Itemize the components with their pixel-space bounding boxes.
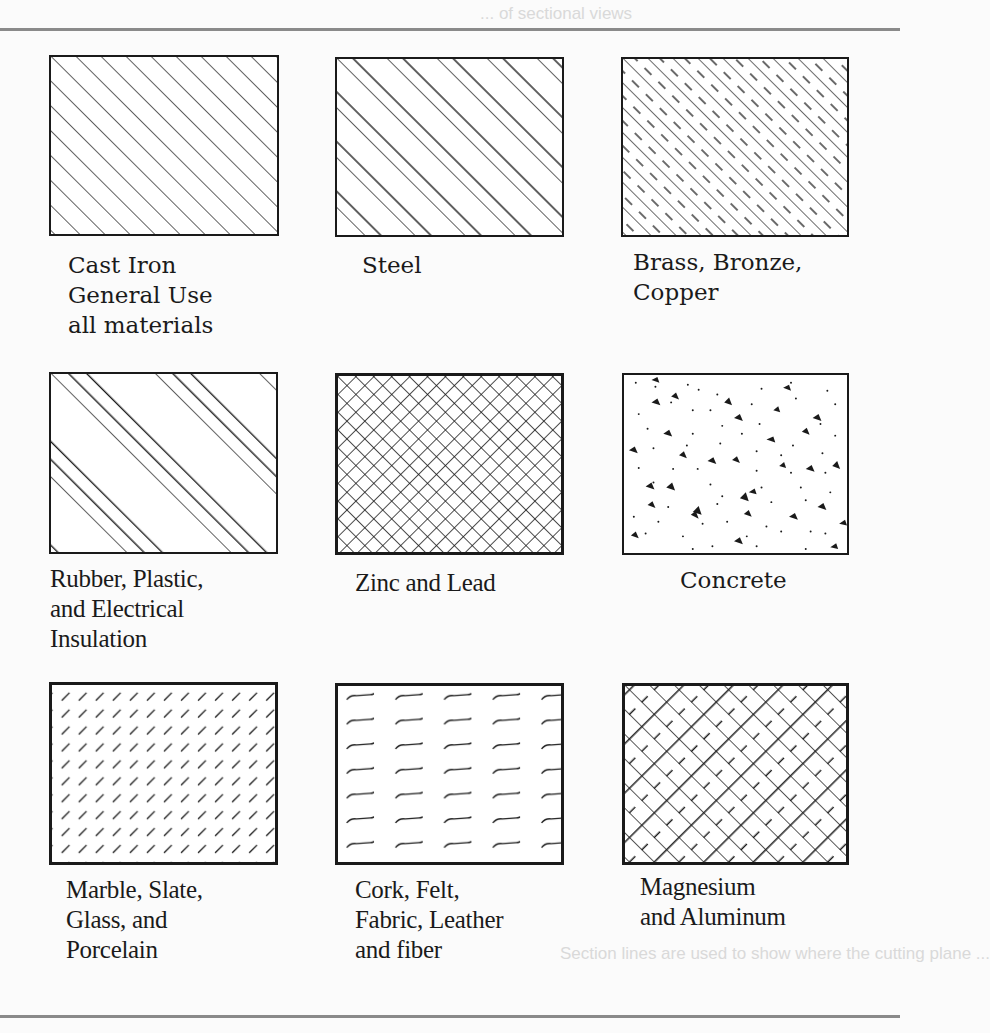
brick-crosshatch-icon [625,686,846,862]
zinc-swatch [335,373,564,555]
steel-swatch [335,57,564,237]
concrete-swatch [622,373,849,555]
top-rule [0,28,900,31]
bleed-through-text: ... of sectional views [480,4,632,24]
cork-swatch [335,683,564,865]
cork-label: Cork, Felt, Fabric, Leather and fiber [355,875,503,965]
brass-label: Brass, Bronze, Copper [633,247,802,307]
grouped-diagonal-hatch-icon [51,374,276,552]
wavy-dash-hatch-icon [338,686,561,862]
marble-label: Marble, Slate, Glass, and Porcelain [66,875,203,965]
concrete-label: Concrete [680,565,787,595]
steel-label: Steel [362,250,422,280]
short-dash-hatch-icon [52,685,275,862]
cast-iron-swatch [49,55,279,236]
magnesium-swatch [622,683,849,865]
rubber-label: Rubber, Plastic, and Electrical Insulati… [50,564,203,654]
rubber-swatch [49,372,278,554]
bottom-rule [0,1015,900,1018]
marble-swatch [49,682,278,865]
paired-diagonal-hatch-icon [337,59,562,235]
crosshatch-icon [338,376,561,552]
brass-swatch [621,57,849,237]
magnesium-label: Magnesium and Aluminum [640,872,786,932]
bleed-through-text: Section lines are used to show where the… [560,944,990,964]
uniform-diagonal-hatch-icon [51,57,277,234]
zinc-label: Zinc and Lead [355,568,495,598]
dashed-diagonal-hatch-icon [623,59,847,235]
cast-iron-label: Cast Iron General Use all materials [68,250,213,340]
concrete-stipple-icon [624,375,847,553]
